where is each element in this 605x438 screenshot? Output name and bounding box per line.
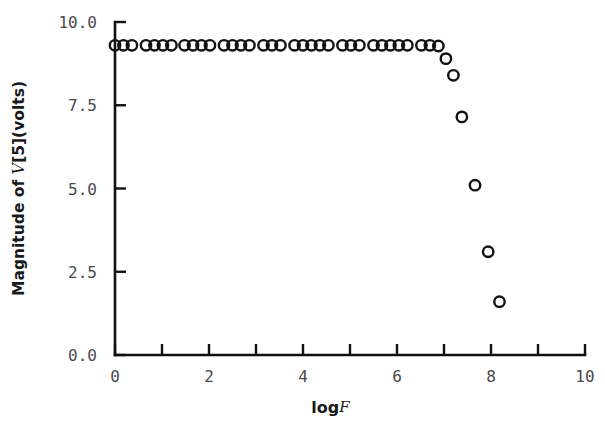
x-tick-label: 2 bbox=[204, 367, 214, 386]
data-point bbox=[483, 247, 493, 257]
x-tick-label: 10 bbox=[575, 367, 594, 386]
x-tick-label: 8 bbox=[486, 367, 496, 386]
y-tick-label: 0.0 bbox=[0, 346, 97, 365]
y-axis-label-variable: V bbox=[9, 163, 28, 175]
data-point bbox=[441, 53, 451, 63]
x-axis-label: logF bbox=[0, 398, 605, 417]
x-axis-label-prefix: log bbox=[311, 398, 339, 417]
data-points bbox=[110, 40, 505, 307]
y-tick-label: 5.0 bbox=[0, 179, 97, 198]
data-point bbox=[470, 180, 480, 190]
y-tick-label: 2.5 bbox=[0, 262, 97, 281]
x-tick-label: 4 bbox=[298, 367, 308, 386]
x-tick-label: 6 bbox=[392, 367, 402, 386]
x-axis-label-variable: F bbox=[339, 398, 349, 416]
y-axis-label-post: [5](volts) bbox=[10, 81, 28, 163]
x-tick-label: 0 bbox=[110, 367, 120, 386]
plot-figure: Magnitude of V[5](volts) logF 0.02.55.07… bbox=[0, 0, 605, 438]
data-point bbox=[457, 112, 467, 122]
y-tick-label: 10.0 bbox=[0, 13, 97, 32]
y-tick-label: 7.5 bbox=[0, 96, 97, 115]
data-point bbox=[494, 297, 504, 307]
tick-marks bbox=[115, 22, 585, 355]
data-point bbox=[448, 70, 458, 80]
axis-lines bbox=[115, 22, 585, 355]
